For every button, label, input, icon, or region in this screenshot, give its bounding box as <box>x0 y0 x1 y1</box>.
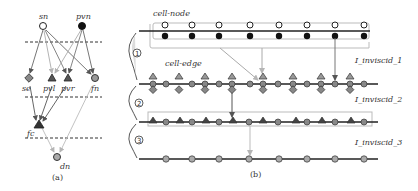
node-fn <box>92 75 99 82</box>
label-sn: sn <box>39 12 48 21</box>
node-pvl <box>48 74 56 81</box>
label-fn: fn <box>90 84 99 93</box>
panel-a: sn pvn se pvl pvr fn fc dn (a) <box>22 12 102 182</box>
label-pvl: pvl <box>43 84 56 93</box>
level-3-nodes <box>149 117 367 125</box>
node-dn <box>54 154 61 161</box>
caption-a: (a) <box>52 173 63 182</box>
label-cell-edge: cell-edge <box>165 59 202 68</box>
label-pvn: pvn <box>76 12 91 21</box>
svg-text:1: 1 <box>135 50 139 58</box>
diagram-canvas: sn pvn se pvl pvr fn fc dn (a) <box>0 0 418 191</box>
label-level-3: I_inviscid_3 <box>354 138 402 147</box>
level-2-nodes <box>149 73 367 94</box>
caption-b: (b) <box>250 170 261 179</box>
node-pvn <box>79 23 86 30</box>
node-se <box>25 74 33 82</box>
label-level-2: I_inviscid_2 <box>354 95 402 104</box>
label-level-1: I_inviscid_1 <box>354 56 402 65</box>
svg-text:2: 2 <box>137 100 141 108</box>
label-dn: dn <box>60 162 70 171</box>
node-fc <box>34 120 44 128</box>
label-pvr: pvr <box>61 84 76 93</box>
label-cell-node: cell-node <box>153 9 190 18</box>
node-sn <box>40 23 47 30</box>
label-fc: fc <box>26 129 35 138</box>
node-pvr <box>64 74 72 81</box>
svg-text:3: 3 <box>137 137 141 145</box>
panel-b: 1 2 3 cell-node cell-edge I_inviscid_1 I… <box>129 9 402 179</box>
label-se: se <box>22 84 31 93</box>
